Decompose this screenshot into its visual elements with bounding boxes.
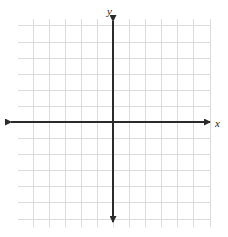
coordinate-plane-svg bbox=[0, 0, 228, 237]
coordinate-plane-figure: y x bbox=[0, 0, 228, 237]
x-axis-label: x bbox=[215, 118, 220, 129]
y-axis-label: y bbox=[107, 6, 112, 17]
